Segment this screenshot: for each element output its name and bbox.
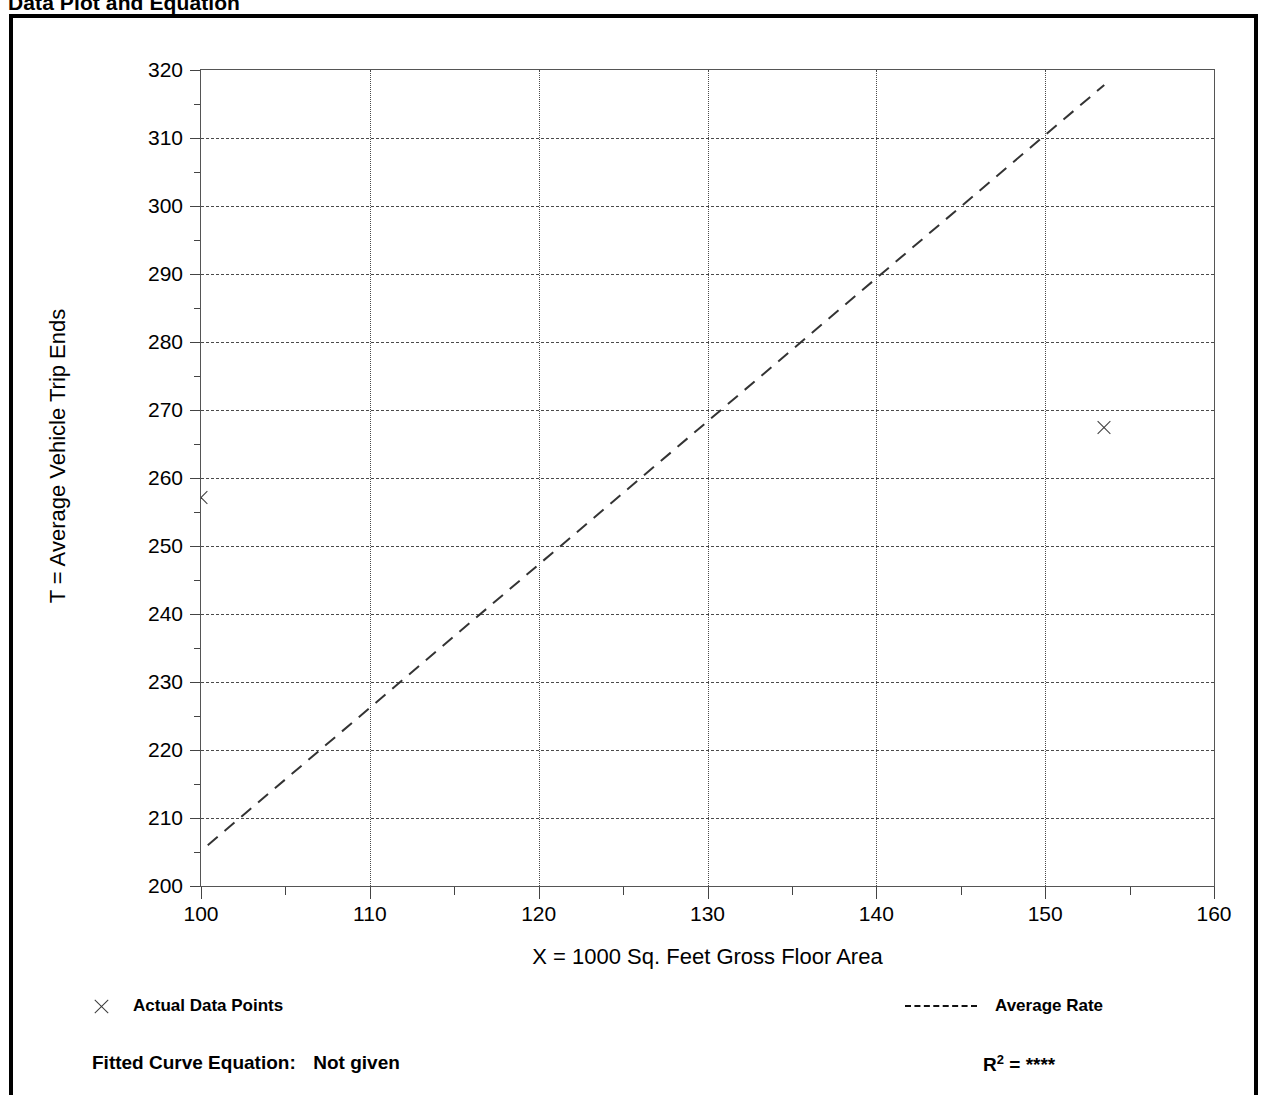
y-tick-label: 270 <box>113 399 183 420</box>
x-marker-icon <box>92 997 111 1016</box>
r-squared-value: R2 = **** <box>983 1052 1055 1076</box>
y-tick-label: 240 <box>113 603 183 624</box>
x-tick-label: 100 <box>161 903 241 925</box>
x-tick-minor <box>285 887 286 895</box>
legend-actual-data-points: Actual Data Points <box>92 996 283 1016</box>
y-tick-label: 320 <box>113 59 183 80</box>
x-tick-label: 110 <box>330 903 410 925</box>
y-tick-label: 300 <box>113 195 183 216</box>
x-tick-minor <box>961 887 962 895</box>
x-tick-minor <box>1130 887 1131 895</box>
y-tick-label: 290 <box>113 263 183 284</box>
x-tick-minor <box>792 887 793 895</box>
legend-label-actual-data-points: Actual Data Points <box>133 996 283 1016</box>
x-tick-major <box>708 887 709 899</box>
x-tick-major <box>876 887 877 899</box>
y-tick-label: 280 <box>113 331 183 352</box>
y-tick-label: 310 <box>113 127 183 148</box>
legend-label-average-rate: Average Rate <box>995 996 1103 1016</box>
data-point-marker <box>201 489 210 507</box>
y-tick-label: 220 <box>113 739 183 760</box>
y-axis-title: T = Average Vehicle Trip Ends <box>45 226 71 686</box>
y-tick-label: 250 <box>113 535 183 556</box>
x-tick-minor <box>623 887 624 895</box>
series-layer <box>201 70 1214 886</box>
data-point-marker <box>1095 419 1113 437</box>
x-tick-major <box>539 887 540 899</box>
y-tick-label: 230 <box>113 671 183 692</box>
r2-equals: = <box>1009 1054 1020 1075</box>
x-tick-label: 130 <box>668 903 748 925</box>
y-tick-label: 210 <box>113 807 183 828</box>
legend-average-rate: Average Rate <box>905 996 1103 1016</box>
r2-label: R <box>983 1054 997 1075</box>
y-tick-label: 260 <box>113 467 183 488</box>
y-tick-label: 200 <box>113 875 183 896</box>
x-tick-major <box>370 887 371 899</box>
fitted-curve-equation: Fitted Curve Equation: Not given <box>92 1052 400 1074</box>
x-tick-label: 150 <box>1005 903 1085 925</box>
x-tick-label: 160 <box>1174 903 1254 925</box>
average-rate-line <box>208 85 1105 845</box>
x-axis-title: X = 1000 Sq. Feet Gross Floor Area <box>200 944 1215 970</box>
equation-value: Not given <box>313 1052 400 1073</box>
chart-container: T = Average Vehicle Trip Ends X = 1000 S… <box>0 0 1268 1097</box>
r2-exponent: 2 <box>997 1052 1004 1067</box>
plot-inner <box>201 70 1214 886</box>
equation-label: Fitted Curve Equation: <box>92 1052 296 1073</box>
x-tick-minor <box>454 887 455 895</box>
x-tick-major <box>1045 887 1046 899</box>
dashed-line-icon <box>905 1005 977 1007</box>
r2-asterisks: **** <box>1026 1054 1056 1075</box>
x-tick-label: 140 <box>836 903 916 925</box>
x-tick-major <box>1214 887 1215 899</box>
plot-area <box>200 69 1215 887</box>
x-tick-major <box>201 887 202 899</box>
x-tick-label: 120 <box>499 903 579 925</box>
